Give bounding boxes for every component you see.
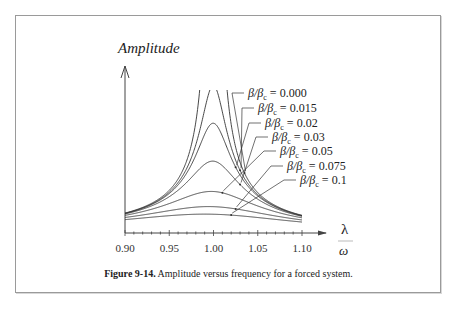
legend: β/βc = 0.000β/βc = 0.015β/βc = 0.02β/βc … bbox=[221, 86, 346, 216]
x-tick-label: 1.05 bbox=[248, 242, 268, 254]
leader-arrow-icon bbox=[241, 137, 268, 183]
caption-label: Figure 9-14. bbox=[104, 268, 155, 279]
x-tick-label: 0.90 bbox=[115, 242, 135, 254]
x-axis-arrow-icon bbox=[318, 231, 327, 236]
x-tick-label: 1.00 bbox=[204, 242, 224, 254]
curve-0_03 bbox=[125, 161, 302, 216]
figure-caption: Figure 9-14. Amplitude versus frequency … bbox=[0, 268, 457, 279]
caption-text: Amplitude versus frequency for a forced … bbox=[156, 268, 353, 279]
curve-0_1 bbox=[125, 214, 302, 222]
curve-0_015 bbox=[125, 85, 302, 215]
y-axis-label: Amplitude bbox=[117, 40, 180, 56]
x-axis-label-omega: ω bbox=[339, 243, 348, 258]
leader-arrow-icon bbox=[241, 108, 254, 168]
resonance-chart: 0.900.951.001.051.10 β/βc = 0.000β/βc = … bbox=[0, 0, 457, 309]
legend-label: β/βc = 0.015 bbox=[257, 101, 317, 117]
x-axis-label-lambda: λ bbox=[341, 221, 349, 237]
legend-label: β/βc = 0.1 bbox=[299, 173, 347, 189]
legend-label: β/βc = 0.05 bbox=[279, 144, 333, 160]
x-tick-label: 0.95 bbox=[160, 242, 180, 254]
x-tick-label: 1.10 bbox=[292, 242, 312, 254]
legend-label: β/βc = 0.000 bbox=[247, 86, 307, 102]
